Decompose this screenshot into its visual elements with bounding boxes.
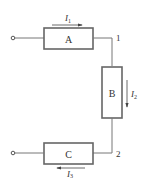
top-terminal [11, 36, 15, 40]
current-i2-label: I2 [130, 89, 137, 100]
component-c-label: C [65, 149, 72, 160]
circuit-diagram: A 1 I1 B I2 2 C I3 [0, 0, 143, 178]
current-i1-label: I1 [64, 13, 71, 24]
component-a-label: A [65, 34, 73, 45]
component-b-label: B [109, 88, 116, 99]
node-2-label: 2 [116, 149, 121, 159]
node-1-label: 1 [116, 33, 121, 43]
current-i3-label: I3 [66, 169, 73, 178]
bottom-terminal [11, 151, 15, 155]
